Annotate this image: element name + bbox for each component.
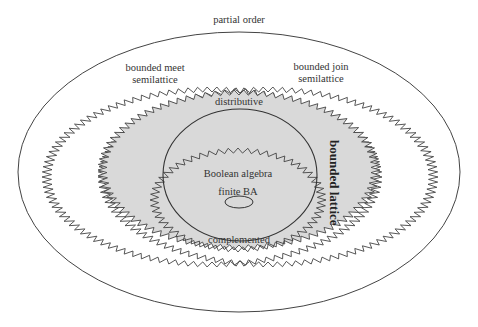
- label-boolean-algebra: Boolean algebra: [204, 168, 273, 179]
- label-bounded-lattice: bounded lattice: [327, 140, 342, 226]
- label-distributive: distributive: [215, 96, 263, 107]
- label-bounded-meet-1: bounded meet: [125, 62, 184, 73]
- label-complemented: complemented: [208, 234, 271, 245]
- lattice-hierarchy-diagram: partial order bounded meet semilattice b…: [0, 0, 478, 327]
- label-partial-order: partial order: [213, 14, 265, 25]
- label-bounded-join-1: bounded join: [293, 61, 349, 72]
- label-bounded-join-2: semilattice: [298, 73, 344, 84]
- label-bounded-meet-2: semilattice: [132, 74, 178, 85]
- label-finite-ba: finite BA: [218, 186, 258, 197]
